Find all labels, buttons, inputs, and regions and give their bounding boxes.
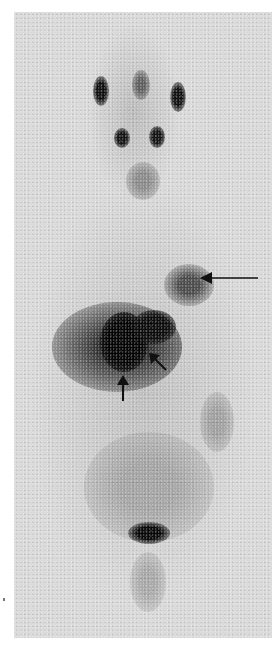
short-arrow-up-icon (116, 375, 130, 401)
submandibular-right-uptake (149, 126, 165, 148)
parotid-right-uptake (170, 82, 186, 112)
scintigraphy-image (14, 12, 272, 638)
thyroid-region (126, 162, 160, 200)
short-arrow-up-left-icon (148, 352, 168, 372)
pelvic-uptake (130, 552, 166, 612)
bladder-uptake (128, 522, 170, 544)
edge-artifact (3, 598, 5, 601)
submandibular-left-uptake (114, 128, 130, 148)
right-flank-uptake (200, 392, 234, 452)
long-arrow-left-icon (200, 270, 260, 286)
intense-right-uptake (132, 310, 176, 344)
parotid-left-uptake (93, 76, 109, 106)
nasal-uptake (132, 70, 150, 100)
